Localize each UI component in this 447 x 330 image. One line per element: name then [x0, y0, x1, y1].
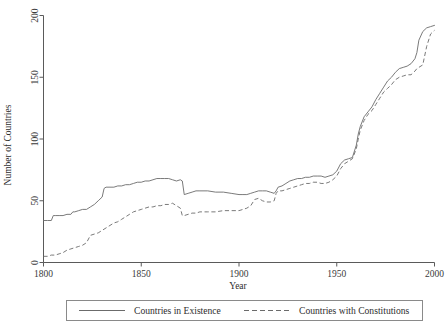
y-tick-label: 0	[30, 260, 40, 265]
y-axis-title: Number of Countries	[3, 104, 13, 185]
legend-label-countries-in-existence: Countries in Existence	[134, 305, 221, 316]
y-axis-ticks: 050100150200	[30, 8, 44, 265]
series-countries-in-existence	[44, 25, 435, 220]
series-countries-with-constitutions	[44, 30, 435, 256]
x-axis-ticks: 18001850190019502000	[34, 263, 444, 279]
x-axis-title: Year	[229, 281, 247, 291]
x-tick-label: 1800	[34, 269, 53, 279]
y-tick-label: 150	[30, 70, 40, 85]
x-tick-label: 1900	[230, 269, 249, 279]
y-tick-label: 50	[30, 196, 40, 206]
x-tick-label: 1950	[327, 269, 346, 279]
chart-figure: 050100150200 18001850190019502000 Number…	[0, 0, 447, 330]
x-tick-label: 1850	[132, 269, 151, 279]
y-tick-label: 100	[30, 132, 40, 147]
line-chart-canvas: 050100150200 18001850190019502000 Number…	[0, 0, 447, 330]
y-tick-label: 200	[30, 8, 40, 23]
plot-area: 050100150200 18001850190019502000	[30, 8, 445, 278]
legend-label-countries-with-constitutions: Countries with Constitutions	[299, 305, 410, 316]
chart-legend: Countries in Existence Countries with Co…	[67, 301, 423, 321]
x-tick-label: 2000	[425, 269, 444, 279]
